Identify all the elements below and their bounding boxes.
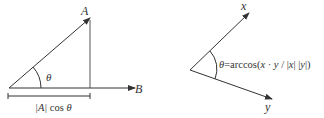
projection-length-label: |A| cos θ [35, 102, 72, 113]
vector-projection-figure: A B θ |A| cos θ x y θ=arccos(x · y / |x|… [0, 0, 324, 118]
formula-end: |) [305, 59, 311, 71]
measurement-bar [8, 93, 90, 99]
vector-y-label: y [264, 100, 271, 114]
angle-arc-right [210, 51, 217, 79]
formula-dot: · [265, 59, 274, 70]
formula-slash: / | [279, 59, 289, 70]
cos-func: cos [47, 102, 66, 113]
formula-mid: | | [293, 59, 300, 70]
formula-arccos: =arccos( [224, 59, 261, 71]
angle-arc [33, 67, 41, 88]
vector-x-label: x [240, 0, 247, 13]
projection-diagram: A B θ |A| cos θ [8, 4, 143, 113]
vector-a-label: A [80, 4, 89, 18]
angle-theta-label: θ [46, 71, 52, 83]
cos-theta: θ [66, 102, 71, 113]
angle-formula-diagram: x y θ=arccos(x · y / |x| |y|) [190, 0, 311, 114]
vector-b-label: B [135, 82, 143, 96]
abs-a: |A| [35, 102, 47, 113]
vector-y-arrow [190, 70, 272, 99]
arccos-formula: θ=arccos(x · y / |x| |y|) [219, 59, 311, 71]
